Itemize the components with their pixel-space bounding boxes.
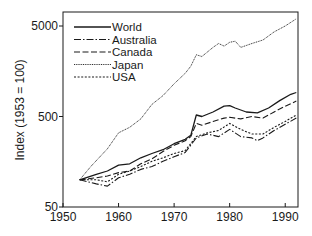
legend-label: World xyxy=(112,21,142,33)
series-line-australia xyxy=(80,118,297,186)
legend-item-canada: Canada xyxy=(74,46,153,58)
x-axis: 19501960197019801990 xyxy=(50,203,299,224)
y-axis: 505005000 xyxy=(31,19,63,214)
legend-label: Canada xyxy=(112,46,153,58)
legend-item-usa: USA xyxy=(74,71,136,83)
y-tick-label: 500 xyxy=(38,110,58,124)
x-tick-label: 1980 xyxy=(216,210,243,224)
legend: WorldAustraliaCanadaJapanUSA xyxy=(74,21,157,83)
y-axis-title: Index (1953 = 100) xyxy=(13,59,27,160)
x-tick-label: 1960 xyxy=(105,210,132,224)
legend-label: Japan xyxy=(112,59,143,71)
y-tick-label: 5000 xyxy=(31,19,58,33)
line-chart: 505005000 19501960197019801990 Index (19… xyxy=(0,0,312,236)
series-line-world xyxy=(80,93,297,180)
legend-item-japan: Japan xyxy=(74,59,143,71)
legend-label: USA xyxy=(112,71,136,83)
legend-label: Australia xyxy=(112,34,157,46)
legend-item-world: World xyxy=(74,21,142,33)
legend-item-australia: Australia xyxy=(74,34,157,46)
x-tick-label: 1970 xyxy=(161,210,188,224)
x-tick-label: 1950 xyxy=(50,210,77,224)
x-tick-label: 1990 xyxy=(272,210,299,224)
